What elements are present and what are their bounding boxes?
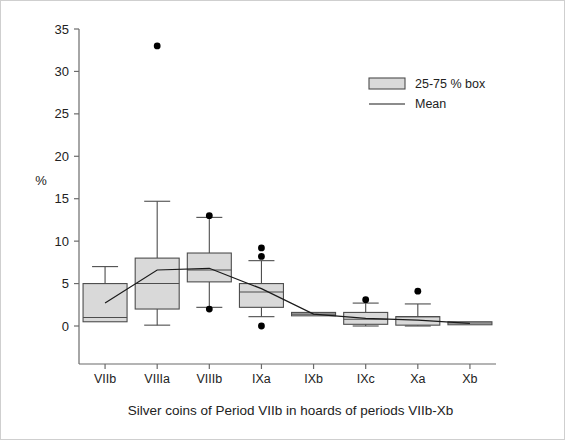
x-tick-label-Xa: Xa: [410, 372, 425, 386]
boxplot-VIIIb: [187, 212, 231, 312]
box-iqr: [239, 284, 283, 308]
outlier-point: [414, 288, 421, 295]
chart-caption: Silver coins of Period VIIb in hoards of…: [128, 403, 454, 418]
y-tick-label: 30: [55, 64, 69, 79]
chart-figure: 05101520253035%VIIbVIIIaVIIIbIXaIXbIXcXa…: [0, 0, 565, 440]
x-tick-label-VIIIa: VIIIa: [144, 372, 170, 386]
x-axis-ticks: VIIbVIIIaVIIIbIXaIXbIXcXaXb: [94, 364, 478, 386]
boxplot-svg: 05101520253035%VIIbVIIIaVIIIbIXaIXbIXcXa…: [1, 1, 565, 440]
y-tick-label: 5: [62, 276, 69, 291]
legend-label-mean: Mean: [415, 97, 446, 111]
x-tick-label-VIIb: VIIb: [94, 372, 116, 386]
boxplot-VIIb: [83, 267, 127, 322]
x-tick-label-IXc: IXc: [357, 372, 375, 386]
x-tick-label-IXa: IXa: [252, 372, 271, 386]
outlier-point: [258, 253, 265, 260]
y-axis-title: %: [35, 173, 47, 188]
x-tick-label-IXb: IXb: [304, 372, 323, 386]
y-tick-label: 10: [55, 234, 69, 249]
outlier-point: [258, 245, 265, 252]
outlier-point: [206, 306, 213, 313]
x-tick-label-VIIIb: VIIIb: [196, 372, 222, 386]
y-tick-label: 15: [55, 191, 69, 206]
y-tick-label: 20: [55, 149, 69, 164]
outlier-point: [206, 212, 213, 219]
x-tick-label-Xb: Xb: [462, 372, 477, 386]
boxplot-IXc: [344, 296, 388, 326]
legend-swatch-box: [369, 78, 405, 89]
outlier-point: [362, 296, 369, 303]
legend-label-box: 25-75 % box: [415, 77, 486, 91]
boxplot-IXa: [239, 245, 283, 330]
y-tick-label: 25: [55, 106, 69, 121]
outlier-point: [258, 323, 265, 330]
box-iqr: [187, 253, 231, 282]
y-tick-label: 35: [55, 22, 69, 37]
y-tick-label: 0: [62, 319, 69, 334]
legend: 25-75 % boxMean: [369, 77, 486, 111]
outlier-point: [154, 43, 161, 50]
y-axis-ticks: 05101520253035: [55, 22, 79, 334]
boxplot-VIIIa: [135, 43, 179, 326]
